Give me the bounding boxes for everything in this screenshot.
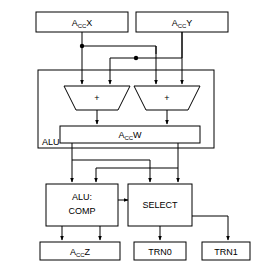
acc-z-suffix: Z (85, 247, 91, 257)
alu-comp-line1: ALU: (72, 192, 92, 202)
alu-comp-line2: COMP (69, 206, 96, 216)
register-trn1: TRN1 (202, 242, 250, 260)
select-block: SELECT (128, 184, 192, 226)
adder-left-operator: + (94, 93, 99, 103)
adder-left: + (64, 86, 130, 110)
register-trn0: TRN0 (134, 242, 186, 260)
alu-block-diagram: ACCX ACCY ALU + + (0, 0, 256, 278)
trn0-label: TRN0 (148, 247, 172, 257)
alu-group-label: ALU (42, 137, 60, 147)
acc-y-suffix: Y (186, 18, 192, 28)
register-acc-x: ACCX (36, 12, 128, 32)
alu-comp-block: ALU: COMP (46, 184, 118, 226)
acc-w-suffix: W (133, 130, 142, 140)
select-label: SELECT (142, 200, 178, 210)
acc-x-suffix: X (86, 18, 92, 28)
adder-right: + (134, 86, 200, 110)
trn1-label: TRN1 (214, 247, 238, 257)
adder-right-operator: + (164, 93, 169, 103)
register-acc-w: ACCW (60, 126, 200, 143)
register-acc-z: ACCZ (40, 242, 120, 260)
register-acc-y: ACCY (136, 12, 228, 32)
